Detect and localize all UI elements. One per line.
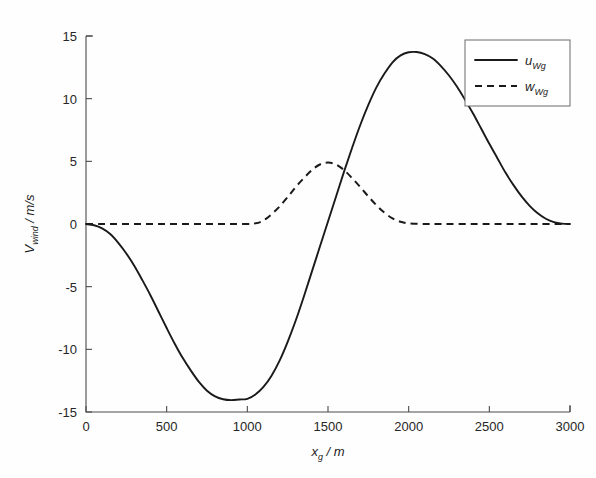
x-tick-label-1: 500 [156, 419, 178, 434]
x-tick-label-6: 3000 [556, 419, 585, 434]
x-tick-label-4: 2000 [394, 419, 423, 434]
chart-legend[interactable]: uWgwWg [465, 40, 570, 106]
x-tick-label-3: 1500 [314, 419, 343, 434]
y-axis-label-unit: / m/s [22, 194, 37, 226]
y-tick-label-3: 0 [70, 217, 77, 232]
x-tick-label-0: 0 [82, 419, 89, 434]
y-tick-label-5: -10 [58, 342, 77, 357]
x-axis-label-unit: / m [323, 444, 345, 459]
wind-profile-chart: 050010001500200025003000 151050-5-10-15 … [0, 0, 596, 478]
x-tick-label-2: 1000 [233, 419, 262, 434]
y-tick-label-2: 5 [70, 154, 77, 169]
legend-box [465, 40, 570, 106]
chart-figure: 050010001500200025003000 151050-5-10-15 … [0, 0, 596, 478]
y-tick-label-1: 10 [63, 92, 77, 107]
y-tick-label-4: -5 [65, 280, 77, 295]
y-tick-label-6: -15 [58, 405, 77, 420]
x-tick-label-5: 2500 [475, 419, 504, 434]
y-axis-label-sub: wind [30, 225, 40, 245]
y-tick-label-0: 15 [63, 29, 77, 44]
